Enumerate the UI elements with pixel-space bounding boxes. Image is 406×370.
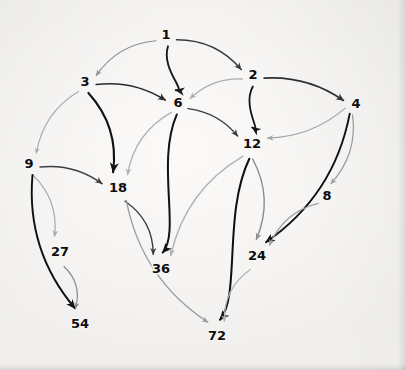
node-label: 3 (80, 74, 89, 89)
graph-edge (220, 159, 249, 320)
graph-edge (224, 269, 250, 321)
graph-edge (264, 78, 343, 101)
graph-node-2[interactable]: 2 (241, 63, 265, 87)
graph-node-1[interactable]: 1 (154, 23, 178, 47)
graph-edge (176, 40, 241, 70)
page-bottom-shadow (0, 364, 406, 370)
node-label: 2 (248, 67, 257, 82)
node-label: 6 (173, 95, 182, 110)
graph-edge (163, 114, 177, 252)
graph-node-9[interactable]: 9 (17, 152, 41, 176)
node-label: 4 (351, 96, 360, 111)
nodes-layer: 132641291882736245472 (17, 23, 368, 348)
node-label: 8 (322, 188, 331, 203)
graph-edge (96, 41, 156, 76)
graph-edge (33, 175, 55, 237)
graph-node-8[interactable]: 8 (315, 184, 339, 208)
diagram-canvas: 132641291882736245472 (0, 0, 406, 370)
graph-edge (190, 79, 242, 99)
node-label: 12 (243, 136, 261, 151)
graph-edge (40, 166, 102, 183)
graph-svg: 132641291882736245472 (0, 0, 406, 370)
graph-node-3[interactable]: 3 (73, 70, 97, 94)
graph-edge (249, 86, 255, 128)
graph-node-72[interactable]: 72 (205, 324, 229, 348)
graph-edge (253, 159, 265, 240)
node-label: 72 (208, 328, 226, 343)
graph-edge (88, 93, 114, 172)
graph-node-6[interactable]: 6 (166, 91, 190, 115)
graph-edge (266, 114, 350, 243)
graph-edge (331, 115, 353, 184)
graph-node-4[interactable]: 4 (344, 92, 368, 116)
graph-edge (36, 91, 78, 153)
graph-node-36[interactable]: 36 (149, 257, 173, 281)
graph-edge (267, 108, 345, 138)
graph-edge (128, 112, 172, 174)
node-label: 9 (24, 156, 33, 171)
graph-node-18[interactable]: 18 (106, 176, 130, 200)
graph-node-12[interactable]: 12 (240, 132, 264, 156)
node-label: 54 (71, 316, 89, 331)
graph-edge (96, 84, 165, 100)
node-label: 24 (248, 248, 266, 263)
graph-edge (188, 109, 238, 136)
node-label: 27 (51, 244, 69, 259)
graph-edge (125, 201, 153, 254)
graph-edge (32, 175, 75, 308)
page-right-shadow (399, 0, 406, 370)
graph-edge (270, 203, 319, 245)
node-label: 36 (152, 261, 170, 276)
graph-node-54[interactable]: 54 (68, 312, 92, 336)
graph-node-24[interactable]: 24 (245, 244, 269, 268)
node-label: 1 (161, 27, 170, 42)
graph-edge (167, 46, 179, 90)
node-label: 18 (109, 180, 127, 195)
graph-node-27[interactable]: 27 (48, 240, 72, 264)
